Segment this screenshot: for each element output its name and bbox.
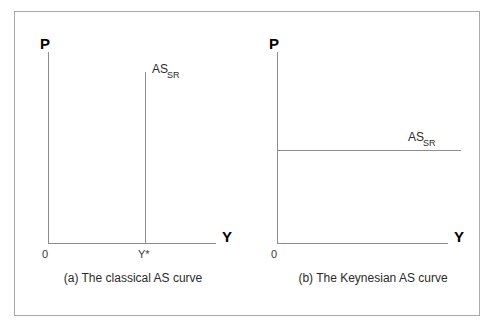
p-axis-line-keynesian — [277, 52, 278, 244]
y-axis-label-classical: Y — [222, 229, 232, 244]
as-sr-label-sub-classical: SR — [167, 70, 180, 80]
p-axis-label-classical: P — [40, 36, 50, 51]
panel-keynesian-as-curve: P Y 0 ASSR (b) The Keynesian AS curve — [248, 0, 495, 330]
as-sr-label-sub-keynesian: SR — [423, 138, 436, 148]
caption-keynesian: (b) The Keynesian AS curve — [288, 272, 458, 284]
caption-classical: (a) The classical AS curve — [58, 272, 208, 284]
as-sr-curve-vertical — [145, 72, 146, 244]
as-sr-label-base-classical: AS — [152, 62, 168, 76]
y-star-tick-label: Y* — [138, 249, 150, 260]
p-axis-label-keynesian: P — [269, 36, 279, 51]
as-sr-curve-label-classical: ASSR — [152, 63, 181, 78]
panel-classical-as-curve: P Y 0 Y* ASSR (a) The classical AS curve — [0, 0, 248, 330]
y-axis-label-keynesian: Y — [454, 229, 464, 244]
figure-root: P Y 0 Y* ASSR (a) The classical AS curve… — [0, 0, 495, 330]
p-axis-line-classical — [48, 52, 49, 244]
y-axis-line-keynesian — [277, 243, 448, 244]
as-sr-curve-horizontal — [277, 150, 461, 151]
origin-label-keynesian: 0 — [271, 249, 277, 260]
y-axis-line-classical — [48, 243, 216, 244]
as-sr-label-base-keynesian: AS — [408, 130, 424, 144]
as-sr-curve-label-keynesian: ASSR — [408, 131, 437, 146]
origin-label-classical: 0 — [42, 249, 48, 260]
